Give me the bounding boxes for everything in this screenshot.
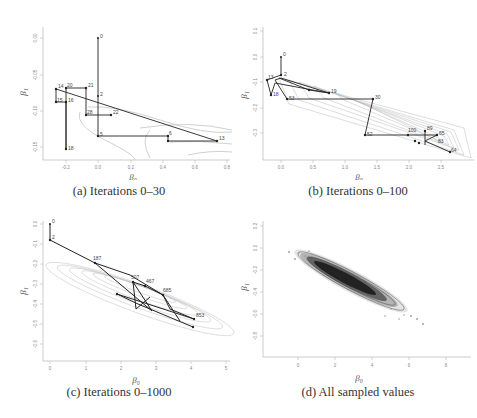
svg-text:507: 507 bbox=[131, 274, 140, 280]
chart-c: 0.0 -0.1 -0.2 -0.3 -0.4 -0.5 -0.6 0 1 2 … bbox=[0, 209, 238, 389]
svg-text:0: 0 bbox=[52, 218, 55, 224]
svg-text:5: 5 bbox=[100, 131, 103, 137]
svg-text:0.1: 0.1 bbox=[253, 27, 258, 34]
svg-text:-0.3: -0.3 bbox=[253, 129, 258, 137]
svg-text:16: 16 bbox=[68, 97, 74, 103]
svg-text:-0.4: -0.4 bbox=[253, 288, 258, 296]
svg-text:853: 853 bbox=[196, 312, 205, 318]
path-a bbox=[56, 38, 217, 149]
svg-text:0: 0 bbox=[100, 33, 103, 39]
svg-text:0.0: 0.0 bbox=[33, 220, 38, 227]
svg-text:0.6: 0.6 bbox=[192, 165, 199, 170]
contours-c bbox=[41, 252, 238, 347]
x-ticks-d: 0 2 4 6 8 bbox=[297, 357, 448, 368]
x-ticks-b: 0.0 0.5 1.0 1.5 2.0 2.5 bbox=[278, 160, 445, 170]
svg-text:3: 3 bbox=[155, 366, 158, 371]
svg-text:β₀: β₀ bbox=[354, 172, 363, 180]
svg-text:-0.2: -0.2 bbox=[33, 260, 38, 268]
svg-text:8: 8 bbox=[445, 363, 448, 368]
svg-text:-0.1: -0.1 bbox=[253, 78, 258, 86]
panel-b: 0.1 0.0 -0.1 -0.2 -0.3 0.0 0.5 1.0 1.5 2… bbox=[239, 0, 477, 209]
x-ticks-c: 0 1 2 3 4 5 bbox=[49, 361, 228, 371]
svg-text:2: 2 bbox=[284, 71, 287, 77]
svg-text:-0.1: -0.1 bbox=[33, 240, 38, 248]
svg-text:0: 0 bbox=[49, 366, 52, 371]
path-b bbox=[267, 57, 450, 152]
svg-text:0.5: 0.5 bbox=[310, 165, 317, 170]
svg-text:28: 28 bbox=[87, 109, 93, 115]
svg-text:52: 52 bbox=[367, 131, 373, 137]
svg-text:-0.2: -0.2 bbox=[253, 104, 258, 112]
svg-text:2.5: 2.5 bbox=[438, 165, 445, 170]
panel-a: 0.00 -0.05 -0.10 -0.15 -0.2 0.0 0.2 0.4 … bbox=[0, 0, 238, 209]
svg-text:18: 18 bbox=[68, 145, 74, 151]
svg-text:83: 83 bbox=[438, 138, 444, 144]
svg-text:5: 5 bbox=[225, 366, 228, 371]
svg-text:14: 14 bbox=[58, 83, 64, 89]
svg-text:64: 64 bbox=[451, 147, 457, 153]
y-ticks-b: 0.1 0.0 -0.1 -0.2 -0.3 bbox=[253, 27, 263, 137]
svg-text:-0.10: -0.10 bbox=[33, 105, 38, 116]
svg-text:4: 4 bbox=[190, 366, 193, 371]
svg-text:467: 467 bbox=[146, 278, 155, 284]
svg-text:-0.8: -0.8 bbox=[253, 332, 258, 340]
svg-text:187: 187 bbox=[93, 255, 102, 261]
panel-d: 0.2 0.0 -0.2 -0.4 -0.6 -0.8 0 2 4 6 8 β₀… bbox=[239, 209, 477, 418]
svg-text:0.00: 0.00 bbox=[33, 33, 38, 42]
svg-text:0.2: 0.2 bbox=[253, 222, 258, 229]
svg-text:2.0: 2.0 bbox=[406, 165, 413, 170]
svg-text:0.4: 0.4 bbox=[160, 165, 167, 170]
svg-text:-0.5: -0.5 bbox=[33, 320, 38, 328]
svg-text:0.0: 0.0 bbox=[278, 165, 285, 170]
svg-text:0.0: 0.0 bbox=[253, 53, 258, 60]
svg-text:β₀: β₀ bbox=[131, 375, 140, 385]
svg-text:β₁: β₁ bbox=[18, 287, 28, 296]
svg-text:685: 685 bbox=[163, 287, 172, 293]
svg-text:15: 15 bbox=[57, 97, 63, 103]
path-c bbox=[50, 224, 194, 327]
svg-text:β₀: β₀ bbox=[128, 172, 137, 180]
chart-b: 0.1 0.0 -0.1 -0.2 -0.3 0.0 0.5 1.0 1.5 2… bbox=[239, 0, 477, 180]
svg-text:6: 6 bbox=[169, 130, 172, 136]
chart-d: 0.2 0.0 -0.2 -0.4 -0.6 -0.8 0 2 4 6 8 β₀… bbox=[239, 209, 477, 389]
svg-text:2: 2 bbox=[52, 234, 55, 240]
svg-text:13: 13 bbox=[219, 135, 225, 141]
svg-text:13: 13 bbox=[268, 74, 274, 80]
y-ticks-d: 0.2 0.0 -0.2 -0.4 -0.6 -0.8 bbox=[253, 222, 263, 340]
point-labels-a: 0 2 5 6 13 14 15 16 18 20 21 28 22 bbox=[57, 33, 225, 151]
svg-text:0: 0 bbox=[297, 363, 300, 368]
svg-text:4: 4 bbox=[371, 363, 374, 368]
svg-text:-0.3: -0.3 bbox=[33, 280, 38, 288]
svg-text:β₁: β₁ bbox=[239, 91, 249, 100]
x-ticks-a: -0.2 0.0 0.2 0.4 0.6 0.8 bbox=[62, 160, 231, 170]
svg-text:22: 22 bbox=[113, 109, 119, 115]
svg-text:-0.2: -0.2 bbox=[62, 165, 70, 170]
y-ticks-a: 0.00 -0.05 -0.10 -0.15 bbox=[33, 33, 43, 152]
svg-text:20: 20 bbox=[67, 82, 73, 88]
svg-text:1: 1 bbox=[85, 366, 88, 371]
panel-c: 0.0 -0.1 -0.2 -0.3 -0.4 -0.5 -0.6 0 1 2 … bbox=[0, 209, 238, 418]
svg-text:-0.4: -0.4 bbox=[33, 300, 38, 308]
svg-text:6: 6 bbox=[408, 363, 411, 368]
svg-text:1.5: 1.5 bbox=[374, 165, 381, 170]
svg-text:-0.05: -0.05 bbox=[33, 69, 38, 80]
caption-d: (d) All sampled values bbox=[239, 385, 477, 400]
caption-b: (b) Iterations 0–100 bbox=[239, 184, 477, 199]
svg-text:β₁: β₁ bbox=[239, 283, 249, 292]
svg-text:1.0: 1.0 bbox=[342, 165, 349, 170]
chart-a: 0.00 -0.05 -0.10 -0.15 -0.2 0.0 0.2 0.4 … bbox=[0, 0, 238, 180]
svg-text:0.0: 0.0 bbox=[253, 244, 258, 251]
svg-text:53: 53 bbox=[289, 95, 295, 101]
svg-text:-0.15: -0.15 bbox=[33, 141, 38, 152]
scatter-cloud-d bbox=[288, 241, 424, 325]
svg-text:21: 21 bbox=[88, 82, 94, 88]
svg-text:30: 30 bbox=[375, 94, 381, 100]
svg-text:89: 89 bbox=[427, 125, 433, 131]
svg-text:0.2: 0.2 bbox=[128, 165, 135, 170]
svg-text:2: 2 bbox=[334, 363, 337, 368]
svg-text:18: 18 bbox=[273, 91, 279, 97]
svg-text:0: 0 bbox=[283, 51, 286, 57]
svg-text:2: 2 bbox=[100, 91, 103, 97]
y-ticks-c: 0.0 -0.1 -0.2 -0.3 -0.4 -0.5 -0.6 bbox=[33, 220, 43, 348]
svg-text:β₀: β₀ bbox=[354, 373, 363, 383]
